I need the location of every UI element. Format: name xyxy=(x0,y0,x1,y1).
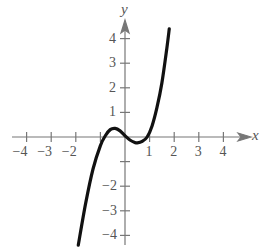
y-axis-label: y xyxy=(121,2,128,17)
x-tick-label: 4 xyxy=(219,145,226,159)
y-tick-label: −3 xyxy=(102,204,117,218)
axes xyxy=(12,20,251,245)
y-tick-label: 1 xyxy=(109,105,116,119)
x-tick-label: −4 xyxy=(13,145,28,159)
y-tick-label: −2 xyxy=(102,179,117,193)
y-tick-label: 3 xyxy=(109,56,116,70)
x-tick-label: 3 xyxy=(195,145,202,159)
y-tick-label: 2 xyxy=(109,81,116,95)
y-tick-label: −4 xyxy=(102,228,117,242)
y-tick-label: 4 xyxy=(109,32,116,46)
function-graph xyxy=(0,0,261,248)
x-tick-label: 1 xyxy=(146,145,153,159)
x-tick-label: −2 xyxy=(62,145,77,159)
x-axis-label: x xyxy=(252,128,259,143)
x-tick-label: −3 xyxy=(37,145,52,159)
x-tick-label: 2 xyxy=(170,145,177,159)
